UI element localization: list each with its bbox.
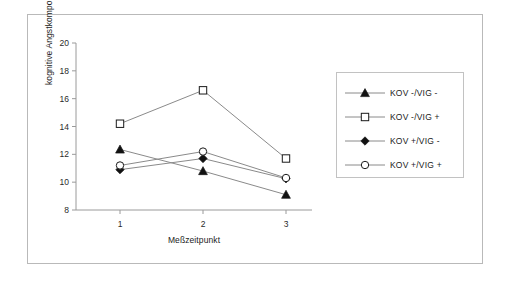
data-point [116,120,123,127]
legend-label: KOV -/VIG - [390,88,438,98]
x-tick-label: 3 [271,219,301,229]
legend-marker-sample [343,134,387,148]
data-point [199,148,206,155]
y-tick-label: 14 [39,122,69,132]
legend-label: KOV +/VIG + [390,160,442,170]
y-tick-label: 8 [39,205,69,215]
series-markers-4 [116,148,289,182]
y-tick-label: 10 [39,177,69,187]
y-tick-label: 16 [39,94,69,104]
y-tick-label: 18 [39,66,69,76]
figure-canvas: kognitive Angstkomponente Meßzeitpunkt 8… [0,0,508,282]
legend-marker-sample [343,158,387,172]
chart-legend: KOV -/VIG -KOV -/VIG +KOV +/VIG -KOV +/V… [336,72,464,178]
legend-marker [361,161,368,168]
legend-marker-sample [343,86,387,100]
data-point [116,162,123,169]
legend-item: KOV +/VIG - [337,128,465,154]
legend-marker-sample [343,110,387,124]
x-axis-title: Meßzeitpunkt [76,235,312,245]
x-tick-label: 1 [105,219,135,229]
legend-item: KOV -/VIG - [337,80,465,106]
legend-item: KOV +/VIG + [337,152,465,178]
legend-marker [361,113,368,120]
y-tick-label: 12 [39,149,69,159]
legend-label: KOV -/VIG + [390,112,440,122]
chart-plot-svg [76,43,312,210]
y-tick-label: 20 [39,38,69,48]
data-point [282,174,289,181]
data-point [282,155,289,162]
data-point [116,145,125,153]
legend-item: KOV -/VIG + [337,104,465,130]
x-tick-label: 2 [188,219,218,229]
legend-label: KOV +/VIG - [390,136,440,146]
data-point [199,87,206,94]
plot-area: kognitive Angstkomponente Meßzeitpunkt 8… [76,43,312,210]
legend-marker [361,137,369,145]
